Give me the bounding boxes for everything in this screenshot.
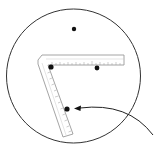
top-point bbox=[72, 27, 76, 31]
diagram-canvas bbox=[0, 0, 159, 153]
arm-point bbox=[95, 66, 100, 71]
indicated-point bbox=[64, 106, 69, 111]
corner-point bbox=[48, 64, 53, 69]
pointer-arrow bbox=[74, 106, 153, 136]
